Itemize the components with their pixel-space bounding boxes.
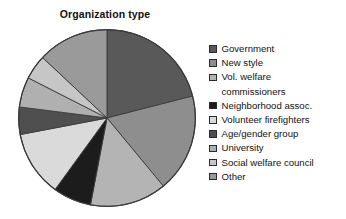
legend-item-label: Vol. welfare: [222, 70, 272, 84]
legend-swatch-icon: [209, 159, 217, 167]
legend-swatch-icon: [209, 145, 217, 153]
legend-swatch-icon: [209, 59, 217, 67]
pie-svg: [17, 28, 197, 208]
legend-item[interactable]: Social welfare council: [209, 156, 346, 170]
legend-item[interactable]: Other: [209, 170, 346, 184]
legend-item[interactable]: Volunteer firefighters: [209, 113, 346, 127]
legend-item-label: Neighborhood assoc.: [222, 99, 313, 113]
legend-item[interactable]: Vol. welfare: [209, 70, 346, 84]
legend-swatch-icon: [209, 116, 217, 124]
legend-swatch-icon: [209, 45, 217, 53]
legend-item-label: Government: [222, 42, 275, 56]
legend-item-label: Social welfare council: [222, 156, 314, 170]
legend-swatch-icon: [209, 130, 217, 138]
legend-item[interactable]: University: [209, 141, 346, 155]
legend-item-label: Other: [222, 170, 246, 184]
legend-swatch-icon: [209, 173, 217, 181]
legend-item-label: University: [222, 141, 264, 155]
legend-item-label: New style: [222, 56, 264, 70]
legend-item-label: Volunteer firefighters: [222, 113, 310, 127]
legend-item-label-continuation: commissioners: [209, 85, 346, 99]
legend-item[interactable]: Age/gender group: [209, 127, 346, 141]
legend: GovernmentNew styleVol. welfarecommissio…: [209, 42, 346, 184]
pie-slice-group: [19, 30, 196, 207]
legend-item-label: Age/gender group: [222, 127, 299, 141]
legend-item[interactable]: Government: [209, 42, 346, 56]
legend-item[interactable]: New style: [209, 56, 346, 70]
pie-chart-figure: Organization type GovernmentNew styleVol…: [0, 0, 346, 219]
legend-item[interactable]: Neighborhood assoc.: [209, 99, 346, 113]
legend-swatch-icon: [209, 102, 217, 110]
pie-plot-area: [17, 28, 197, 208]
legend-swatch-icon: [209, 74, 217, 82]
chart-title: Organization type: [0, 8, 210, 20]
